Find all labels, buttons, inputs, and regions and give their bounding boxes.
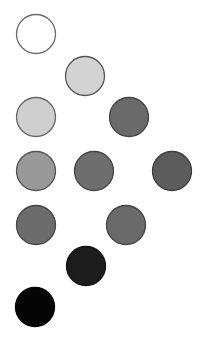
circle-diagram	[0, 0, 200, 342]
circle-node-3	[17, 98, 56, 137]
circle-node-11	[16, 288, 55, 327]
circle-node-6	[75, 152, 114, 191]
circle-node-9	[107, 206, 146, 245]
circle-node-10	[67, 247, 106, 286]
circle-node-5	[17, 152, 56, 191]
circle-node-1	[17, 15, 56, 54]
circle-node-2	[66, 57, 105, 96]
circle-node-8	[17, 206, 56, 245]
circle-node-4	[110, 98, 149, 137]
circle-node-7	[153, 152, 192, 191]
